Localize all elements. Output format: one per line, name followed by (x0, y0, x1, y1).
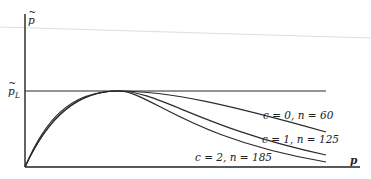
curve-label-c0: c = 0, n = 60 (263, 109, 334, 121)
curve-c2-n185 (25, 91, 326, 167)
aoql-chart: p ~ p ~ L c = 0, n = 60 c = 1, n = 125 c… (0, 0, 371, 179)
svg-text:~: ~ (9, 78, 17, 88)
curve-c0-n60 (25, 91, 326, 167)
curve-label-c2: c = 2, n = 185 (195, 151, 272, 163)
reference-label-pL: p ~ L (8, 78, 20, 100)
svg-text:~: ~ (29, 7, 37, 17)
x-axis-label: p (350, 154, 358, 166)
y-axis-label: p ~ (28, 7, 36, 26)
curve-label-c1: c = 1, n = 125 (262, 133, 339, 145)
scan-artifact-line (0, 27, 371, 38)
svg-text:L: L (14, 91, 20, 100)
curve-c1-n125 (25, 91, 326, 167)
